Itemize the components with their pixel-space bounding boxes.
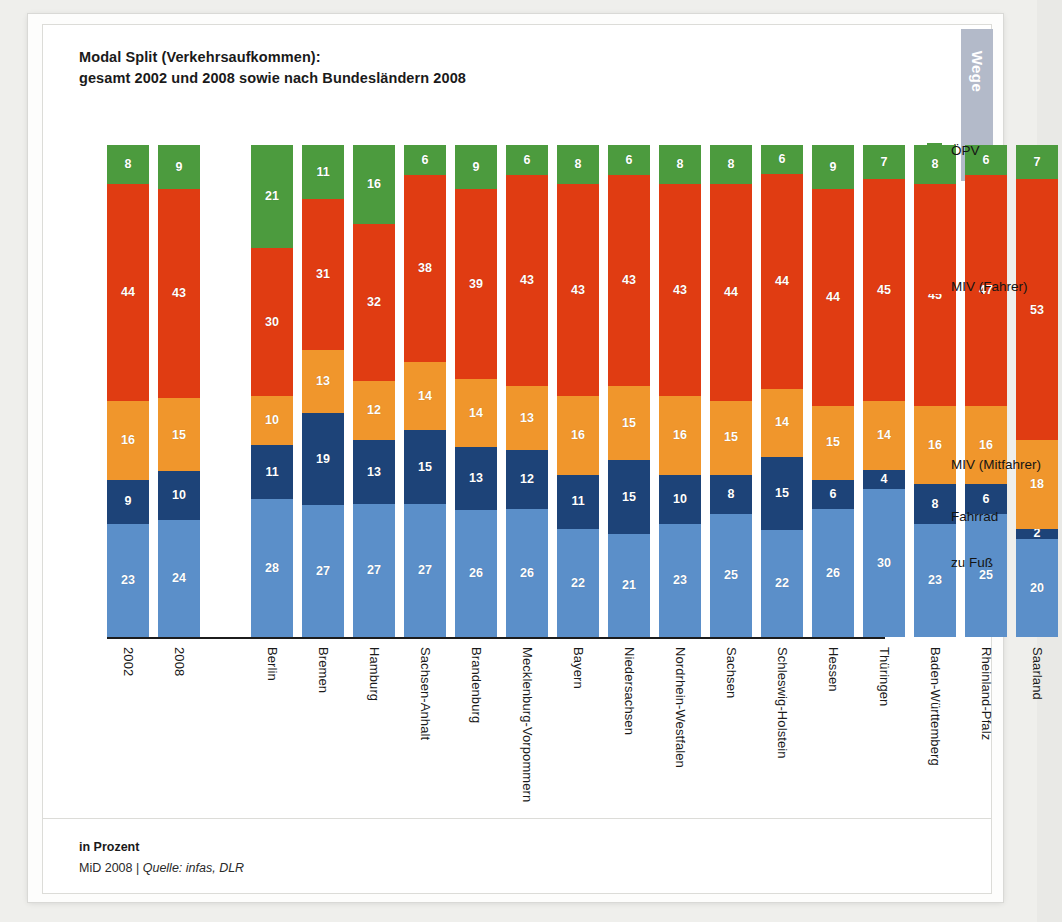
bar-segment-value: 15 bbox=[622, 417, 636, 430]
bar-segment-value: 19 bbox=[316, 453, 330, 466]
legend-swatch-icon bbox=[927, 279, 942, 294]
bar-segment: 31 bbox=[302, 199, 344, 350]
bar-segment: 21 bbox=[608, 534, 650, 637]
bar-segment-value: 10 bbox=[172, 489, 186, 502]
bar-segment: 16 bbox=[659, 396, 701, 475]
bar-segment-value: 14 bbox=[775, 416, 789, 429]
bar-segment-value: 6 bbox=[983, 493, 990, 506]
bar-segment-value: 13 bbox=[469, 472, 483, 485]
bar-segment: 26 bbox=[455, 510, 497, 637]
x-axis-tick-text: Berlin bbox=[265, 647, 280, 681]
bar-column: 843161023 bbox=[659, 145, 701, 637]
bar-segment: 14 bbox=[761, 389, 803, 457]
x-axis-labels: 20022008BerlinBremenHamburgSachsen-Anhal… bbox=[107, 647, 1058, 847]
bar-segment-value: 8 bbox=[728, 488, 735, 501]
bar-segment-value: 6 bbox=[626, 154, 633, 167]
bar-segment: 11 bbox=[557, 475, 599, 529]
section-tab-label: Wege bbox=[969, 51, 986, 92]
bar-segment: 15 bbox=[761, 457, 803, 530]
bar-segment-value: 39 bbox=[469, 278, 483, 291]
bar-column: 643151521 bbox=[608, 145, 650, 637]
bar-segment: 18 bbox=[1016, 440, 1058, 529]
footer-unit: in Prozent bbox=[79, 840, 244, 854]
footer-source-prefix: MiD 2008 | bbox=[79, 861, 143, 875]
bar-segment: 44 bbox=[710, 184, 752, 400]
bar-segment: 11 bbox=[251, 445, 293, 499]
bar-segment: 15 bbox=[158, 398, 200, 471]
bar-segment: 16 bbox=[353, 145, 395, 224]
x-axis-tick-label: Niedersachsen bbox=[608, 647, 650, 847]
bar-segment-value: 9 bbox=[473, 161, 480, 174]
bar-segment-value: 8 bbox=[677, 158, 684, 171]
bar-segment: 28 bbox=[251, 499, 293, 637]
x-axis-tick-label: Sachsen-Anhalt bbox=[404, 647, 446, 847]
footer-source: MiD 2008 | Quelle: infas, DLR bbox=[79, 861, 244, 875]
legend-swatch-icon bbox=[927, 509, 942, 524]
bar-segment: 32 bbox=[353, 224, 395, 381]
bar-segment: 9 bbox=[158, 145, 200, 189]
bar-segment: 6 bbox=[761, 145, 803, 174]
bar-segment-value: 30 bbox=[265, 316, 279, 329]
legend-item: MIV (Fahrer) bbox=[927, 279, 1028, 294]
bar-segment: 21 bbox=[251, 145, 293, 248]
bar-segment: 25 bbox=[710, 514, 752, 637]
bar-segment: 11 bbox=[302, 145, 344, 199]
bar-segment-value: 14 bbox=[877, 429, 891, 442]
bar-segment-value: 6 bbox=[830, 488, 837, 501]
bar-segment-value: 27 bbox=[418, 564, 432, 577]
bar-segment-value: 16 bbox=[571, 429, 585, 442]
plot-area: 8441692394315102421301011281131131927163… bbox=[79, 119, 955, 639]
bar-segment: 44 bbox=[812, 189, 854, 405]
bar-segment: 15 bbox=[710, 401, 752, 475]
bar-segment: 43 bbox=[158, 189, 200, 398]
bar-segment: 13 bbox=[455, 447, 497, 510]
bar-segment: 6 bbox=[812, 480, 854, 510]
bar-segment: 10 bbox=[158, 471, 200, 520]
bar-segment-value: 6 bbox=[779, 153, 786, 166]
bar-segment-value: 27 bbox=[367, 564, 381, 577]
bar-segment: 30 bbox=[251, 248, 293, 396]
bar-column: 939141326 bbox=[455, 145, 497, 637]
bar-segment: 10 bbox=[251, 396, 293, 445]
bar-segment: 27 bbox=[302, 505, 344, 637]
bar-segment-value: 9 bbox=[830, 161, 837, 174]
bar-segment: 13 bbox=[506, 386, 548, 450]
bar-segment-value: 9 bbox=[125, 495, 132, 508]
x-axis-tick-text: Hessen bbox=[826, 647, 841, 692]
bar-segment-value: 44 bbox=[724, 286, 738, 299]
bar-segment-value: 13 bbox=[520, 412, 534, 425]
bar-segment-value: 2 bbox=[1034, 529, 1041, 539]
bar-segment-value: 53 bbox=[1030, 304, 1044, 317]
x-axis-tick-text: Mecklenburg-Vorpommern bbox=[520, 647, 535, 802]
bar-segment: 39 bbox=[455, 189, 497, 379]
bar-segment-value: 22 bbox=[775, 577, 789, 590]
bar-segment: 12 bbox=[506, 450, 548, 509]
bar-segment-value: 27 bbox=[316, 565, 330, 578]
x-axis-tick-text: Bremen bbox=[316, 647, 331, 693]
x-axis-tick-label: Hamburg bbox=[353, 647, 395, 847]
legend-item: Fahrrad bbox=[927, 509, 998, 524]
x-axis-tick-text: 2002 bbox=[121, 647, 136, 676]
bar-segment-value: 24 bbox=[172, 572, 186, 585]
bar-segment: 2 bbox=[1016, 529, 1058, 539]
x-axis-tick-label: Brandenburg bbox=[455, 647, 497, 847]
bar-segment-value: 10 bbox=[673, 493, 687, 506]
bar-segment: 14 bbox=[863, 401, 905, 470]
bar-segment: 8 bbox=[557, 145, 599, 184]
bar-segment-value: 14 bbox=[469, 407, 483, 420]
bar-segment-value: 12 bbox=[367, 404, 381, 417]
x-axis-tick-label: Sachsen bbox=[710, 647, 752, 847]
bar-segment: 6 bbox=[608, 145, 650, 175]
legend-label: MIV (Fahrer) bbox=[951, 279, 1028, 294]
bar-segment: 16 bbox=[914, 406, 956, 485]
bar-column: 843161122 bbox=[557, 145, 599, 637]
x-axis-tick-label: Rheinland-Pfalz bbox=[965, 647, 1007, 847]
footer: in Prozent MiD 2008 | Quelle: infas, DLR bbox=[79, 840, 244, 875]
bar-segment-value: 7 bbox=[1034, 156, 1041, 169]
bar-segment-value: 16 bbox=[673, 429, 687, 442]
bar-column: 2130101128 bbox=[251, 145, 293, 637]
x-axis-tick-text: Brandenburg bbox=[469, 647, 484, 723]
bar-segment-value: 22 bbox=[571, 577, 585, 590]
bar-segment-value: 7 bbox=[881, 156, 888, 169]
bar-segment: 43 bbox=[659, 184, 701, 396]
